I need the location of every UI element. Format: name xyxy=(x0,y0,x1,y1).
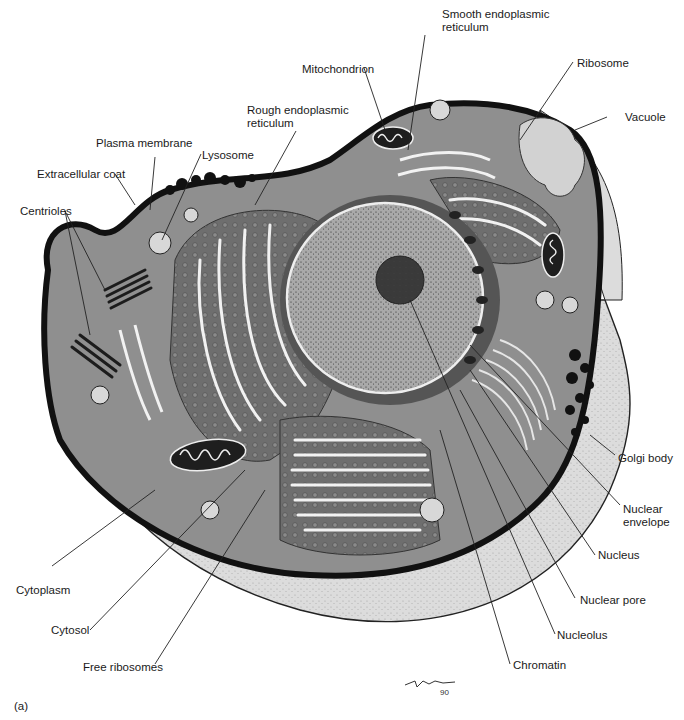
label-nucleus: Nucleus xyxy=(598,549,640,562)
artist-signature: 90 xyxy=(405,681,455,697)
svg-text:90: 90 xyxy=(440,688,449,697)
label-chromatin: Chromatin xyxy=(513,659,566,672)
label-golgi-body: Golgi body xyxy=(618,452,673,465)
label-nucleolus: Nucleolus xyxy=(557,629,608,642)
label-free-ribosomes: Free ribosomes xyxy=(83,661,163,674)
label-smooth-er: Smooth endoplasmic reticulum xyxy=(442,8,549,34)
label-nuclear-envelope: Nuclear envelope xyxy=(623,503,670,529)
label-centrioles: Centrioles xyxy=(20,205,72,218)
label-mitochondrion: Mitochondrion xyxy=(302,63,374,76)
nucleus xyxy=(280,195,500,405)
label-ribosome: Ribosome xyxy=(577,57,629,70)
label-lysosome: Lysosome xyxy=(202,149,254,162)
label-nuclear-pore: Nuclear pore xyxy=(580,594,646,607)
label-cytosol: Cytosol xyxy=(51,624,89,637)
label-rough-er: Rough endoplasmic reticulum xyxy=(247,104,349,130)
label-plasma-membrane: Plasma membrane xyxy=(96,137,193,150)
label-vacuole: Vacuole xyxy=(625,111,666,124)
panel-tag: (a) xyxy=(14,700,28,712)
label-cytoplasm: Cytoplasm xyxy=(16,584,70,597)
label-extracellular-coat: Extracellular coat xyxy=(37,168,125,181)
